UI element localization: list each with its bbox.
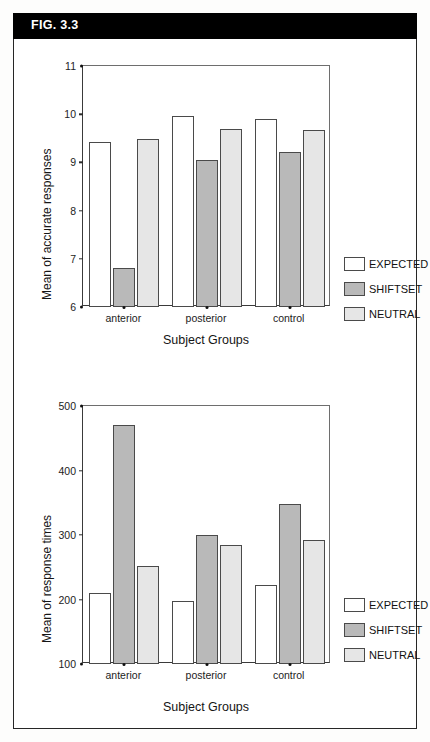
bar-control-neutral: [303, 540, 325, 664]
chart-response-times: Mean of response times 100200300400500 S…: [0, 0, 430, 742]
bar-control-expected: [255, 585, 277, 664]
legend-label-expected: EXPECTED: [369, 598, 428, 612]
legend-swatch-expected: [344, 598, 365, 612]
bar-anterior-shiftset: [113, 425, 135, 664]
legend-swatch-neutral: [344, 648, 365, 662]
bar-posterior-expected: [172, 601, 194, 664]
plot-area-response-times: 100200300400500: [82, 405, 330, 663]
x-tick-mark: [123, 663, 126, 666]
bar-control-shiftset: [279, 504, 301, 664]
bar-anterior-neutral: [137, 566, 159, 664]
bar-posterior-shiftset: [196, 535, 218, 664]
bar-posterior-neutral: [220, 545, 242, 664]
x-tick-label: control: [273, 669, 305, 681]
y-tick-mark: [79, 470, 83, 471]
legend-swatch-shiftset: [344, 623, 365, 637]
x-tick-label: anterior: [106, 669, 142, 681]
y-axis-label: Mean of response times: [40, 515, 54, 643]
figure-page: FIG. 3.3 Mean of accurate responses 6789…: [0, 0, 430, 742]
x-tick-mark: [206, 663, 209, 666]
bar-anterior-expected: [89, 593, 111, 664]
x-axis-label: Subject Groups: [82, 700, 330, 714]
y-tick-mark: [80, 663, 83, 666]
y-tick-mark: [80, 405, 83, 408]
x-tick-label: posterior: [186, 669, 227, 681]
x-tick-mark: [288, 663, 291, 666]
legend-label-neutral: NEUTRAL: [369, 648, 420, 662]
y-tick-mark: [79, 599, 83, 600]
legend-label-shiftset: SHIFTSET: [369, 623, 422, 637]
y-tick-mark: [79, 534, 83, 535]
